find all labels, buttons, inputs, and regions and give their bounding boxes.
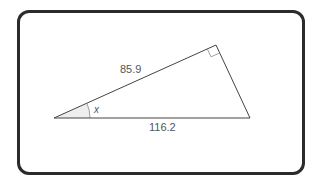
triangle-diagram — [0, 0, 314, 176]
angle-label: x — [94, 105, 99, 115]
side-label-base: 116.2 — [149, 122, 176, 133]
side-label-upper: 85.9 — [120, 64, 141, 75]
